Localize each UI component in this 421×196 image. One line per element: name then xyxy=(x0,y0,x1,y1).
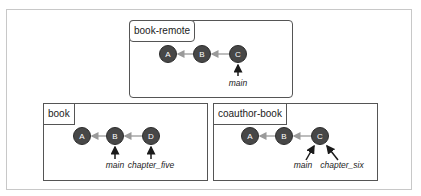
commit-node: C xyxy=(312,128,329,145)
ref-arrow xyxy=(306,146,314,160)
ref-label-main: main xyxy=(106,160,125,170)
svg-text:A: A xyxy=(165,50,171,59)
svg-text:C: C xyxy=(317,132,323,141)
ref-label-main: main xyxy=(229,78,248,88)
commit-node: B xyxy=(276,128,293,145)
svg-text:A: A xyxy=(247,132,253,141)
svg-text:C: C xyxy=(235,50,241,59)
commit-node: A xyxy=(74,128,91,145)
ref-label-chapter-five: chapter_five xyxy=(128,160,175,170)
commit-node: B xyxy=(107,128,124,145)
commit-node: B xyxy=(194,46,211,63)
svg-text:A: A xyxy=(79,132,85,141)
commit-node: D xyxy=(143,128,160,145)
svg-text:B: B xyxy=(112,132,117,141)
svg-text:B: B xyxy=(199,50,204,59)
commit-node: C xyxy=(230,46,247,63)
graph-book: A B D main chapter_five xyxy=(74,128,175,171)
graph-book-remote: A B C main xyxy=(160,46,248,89)
commit-graph: A B C main A B D main chapter_fiv xyxy=(0,0,421,196)
commit-node: A xyxy=(242,128,259,145)
ref-label-chapter-six: chapter_six xyxy=(320,160,364,170)
graph-coauthor-book: A B C main chapter_six xyxy=(242,128,365,171)
svg-text:D: D xyxy=(148,132,154,141)
ref-label-main: main xyxy=(294,160,313,170)
ref-arrow xyxy=(327,146,338,160)
svg-text:B: B xyxy=(281,132,286,141)
commit-node: A xyxy=(160,46,177,63)
